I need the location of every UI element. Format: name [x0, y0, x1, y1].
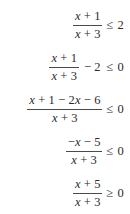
fraction-4-denominator: x + 3	[69, 153, 99, 168]
right-side-3: 0	[114, 103, 124, 116]
fraction-2-bar	[49, 67, 79, 68]
right-side-4: 0	[114, 145, 124, 158]
right-side-5: 0	[114, 187, 124, 200]
derivation-step-1: x + 1 x + 3 ≤ 2	[73, 4, 130, 46]
fraction-3-denominator: x + 3	[50, 111, 80, 126]
fraction-5: x + 5 x + 3	[73, 177, 103, 210]
fraction-2-denominator: x + 3	[49, 69, 79, 84]
middle-term-2: − 2	[79, 61, 102, 74]
fraction-3: x + 1 − 2x − 6 x + 3	[27, 93, 102, 126]
math-derivation-page: x + 1 x + 3 ≤ 2 x + 1 x + 3 − 2 ≤ 0 x + …	[0, 0, 130, 214]
relation-3: ≤	[102, 103, 113, 116]
relation-2: ≤	[102, 61, 113, 74]
right-side-2: 0	[114, 61, 124, 74]
fraction-1-numerator: x + 1	[73, 9, 103, 24]
relation-4: ≤	[102, 145, 113, 158]
derivation-step-2: x + 1 x + 3 − 2 ≤ 0	[49, 46, 130, 88]
derivation-step-list: x + 1 x + 3 ≤ 2 x + 1 x + 3 − 2 ≤ 0 x + …	[0, 0, 130, 214]
right-side-1: 2	[114, 19, 124, 32]
derivation-step-4: −x − 5 x + 3 ≤ 0	[66, 130, 130, 172]
relation-1: ≤	[102, 19, 113, 32]
fraction-1-bar	[73, 25, 103, 26]
fraction-2-numerator: x + 1	[49, 51, 79, 66]
fraction-3-numerator: x + 1 − 2x − 6	[27, 93, 102, 108]
relation-5: ≥	[102, 187, 113, 200]
fraction-2: x + 1 x + 3	[49, 51, 79, 84]
fraction-1: x + 1 x + 3	[73, 9, 103, 42]
fraction-1-denominator: x + 3	[73, 27, 103, 42]
derivation-step-3: x + 1 − 2x − 6 x + 3 ≤ 0	[27, 88, 130, 130]
fraction-5-denominator: x + 3	[73, 195, 103, 210]
fraction-5-numerator: x + 5	[73, 177, 103, 192]
fraction-4: −x − 5 x + 3	[66, 135, 103, 168]
fraction-5-bar	[73, 193, 103, 194]
fraction-4-bar	[66, 151, 103, 152]
fraction-3-bar	[27, 109, 102, 110]
derivation-step-5: x + 5 x + 3 ≥ 0	[73, 172, 130, 214]
fraction-4-numerator: −x − 5	[66, 135, 103, 150]
